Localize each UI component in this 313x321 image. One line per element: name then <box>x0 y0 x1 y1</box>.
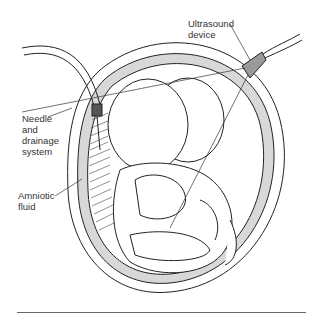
label-amniotic-fluid: Amniotic fluid <box>18 190 54 212</box>
divider-rule <box>17 312 306 313</box>
illustration <box>0 0 313 321</box>
ultrasound-probe <box>242 34 302 78</box>
label-ultrasound-device: Ultrasound device <box>188 18 234 40</box>
label-needle-drainage-system: Needle and drainage system <box>22 113 59 157</box>
